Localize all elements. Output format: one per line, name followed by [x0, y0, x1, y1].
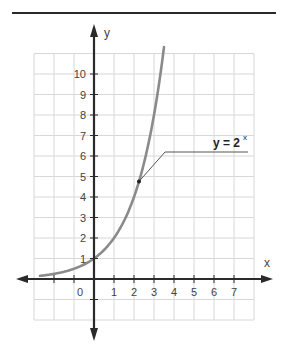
y-tick-label: 1: [80, 253, 86, 265]
y-axis-down-arrow-icon: [90, 328, 98, 341]
x-tick-label: 1: [111, 286, 117, 298]
x-axis-left-arrow-icon: [16, 275, 28, 283]
x-axis-label: x: [264, 256, 270, 270]
equation-label: y = 2: [213, 136, 240, 150]
y-tick-label: 5: [80, 171, 86, 183]
x-axis-right-arrow-icon: [261, 275, 273, 283]
y-tick-label: 2: [80, 232, 86, 244]
y-tick-label: 3: [80, 212, 86, 224]
exponential-graph: 0123456712345678910xyy = 2x: [0, 0, 287, 359]
y-tick-label: 4: [80, 191, 86, 203]
callout-point: [137, 179, 141, 183]
y-tick-label: 10: [74, 68, 86, 80]
y-tick-label: 8: [80, 109, 86, 121]
equation-exponent: x: [243, 133, 247, 142]
x-tick-label: 2: [131, 286, 137, 298]
y-tick-label: 6: [80, 150, 86, 162]
x-tick-label: 5: [191, 286, 197, 298]
x-tick-label: 4: [171, 286, 177, 298]
y-axis-label: y: [104, 26, 110, 40]
y-tick-label: 7: [80, 130, 86, 142]
x-tick-label: 0: [77, 286, 83, 298]
x-tick-label: 3: [151, 286, 157, 298]
y-tick-label: 9: [80, 89, 86, 101]
exponential-curve: [40, 47, 164, 276]
y-axis-up-arrow-icon: [90, 24, 98, 37]
x-tick-label: 6: [211, 286, 217, 298]
x-tick-label: 7: [231, 286, 237, 298]
